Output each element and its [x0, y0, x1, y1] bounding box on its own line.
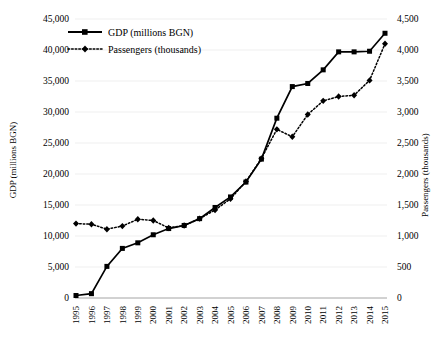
x-tick-label: 1997	[102, 306, 112, 325]
right-tick-label: 1,000	[397, 231, 419, 241]
x-tick-label: 2000	[148, 306, 158, 325]
series-line-gdp	[76, 33, 385, 295]
legend-marker-square	[82, 29, 88, 35]
x-tick-label: 2015	[380, 306, 390, 325]
x-tick-label: 2006	[241, 306, 251, 325]
x-tick-label: 1995	[71, 306, 81, 325]
right-tick-label: 0	[397, 293, 402, 303]
x-tick-label: 2013	[349, 306, 359, 325]
right-tick-label: 3,000	[397, 107, 419, 117]
right-tick-label: 2,500	[397, 138, 419, 148]
left-tick-label: 15,000	[43, 200, 69, 210]
right-axis-tick-labels: 05001,0001,5002,0002,5003,0003,5004,0004…	[397, 14, 419, 303]
data-point-gdp	[135, 240, 140, 245]
right-tick-label: 3,500	[397, 76, 419, 86]
x-tick-label: 2012	[334, 306, 344, 324]
x-tick-label: 2002	[179, 306, 189, 324]
left-tick-label: 5,000	[48, 262, 70, 272]
x-tick-label: 2011	[318, 306, 328, 324]
data-point-gdp	[321, 67, 326, 72]
x-tick-label: 1996	[87, 306, 97, 325]
data-point-passengers	[104, 226, 110, 232]
dual-axis-line-chart: 05,00010,00015,00020,00025,00030,00035,0…	[0, 0, 441, 340]
data-point-passengers	[382, 41, 388, 47]
left-tick-label: 40,000	[43, 45, 69, 55]
data-point-gdp	[104, 264, 109, 269]
data-point-passengers	[73, 220, 79, 226]
right-tick-label: 4,500	[397, 14, 419, 24]
x-tick-label: 2001	[164, 306, 174, 324]
left-tick-label: 10,000	[43, 231, 69, 241]
x-axis-tick-labels: 1995199619971998199920002001200220032004…	[71, 306, 390, 325]
data-point-passengers	[119, 223, 125, 229]
x-tick-label: 1999	[133, 306, 143, 325]
data-point-gdp	[290, 84, 295, 89]
gridlines-group	[75, 19, 387, 298]
left-tick-label: 25,000	[43, 138, 69, 148]
data-point-passengers	[274, 126, 280, 132]
data-point-gdp	[367, 49, 372, 54]
chart-legend: GDP (millions BGN)Passengers (thousands)	[68, 27, 201, 56]
data-point-gdp	[352, 49, 357, 54]
data-point-gdp	[383, 31, 388, 36]
data-point-gdp	[336, 49, 341, 54]
x-tick-label: 1998	[118, 306, 128, 325]
left-tick-label: 45,000	[43, 14, 69, 24]
left-tick-label: 30,000	[43, 107, 69, 117]
legend-marker-diamond	[82, 46, 88, 53]
data-point-passengers	[320, 98, 326, 104]
right-tick-label: 500	[397, 262, 412, 272]
data-point-gdp	[120, 246, 125, 251]
left-axis-title: GDP (millions BGN)	[8, 122, 18, 199]
data-point-gdp	[274, 116, 279, 121]
legend-label: Passengers (thousands)	[108, 44, 201, 56]
x-tick-label: 2004	[210, 306, 220, 325]
right-tick-label: 1,500	[397, 200, 419, 210]
x-tick-label: 2005	[226, 306, 236, 325]
data-point-gdp	[305, 81, 310, 86]
x-tick-label: 2003	[195, 306, 205, 325]
legend-label: GDP (millions BGN)	[108, 27, 193, 39]
right-axis-title: Passengers (thousands)	[420, 133, 430, 217]
x-tick-label: 2008	[272, 306, 282, 325]
right-tick-label: 2,000	[397, 169, 419, 179]
data-point-passengers	[336, 93, 342, 99]
left-tick-label: 0	[64, 293, 69, 303]
left-axis-tick-labels: 05,00010,00015,00020,00025,00030,00035,0…	[43, 14, 69, 303]
x-tick-label: 2014	[365, 306, 375, 325]
data-point-passengers	[88, 221, 94, 227]
right-tick-label: 4,000	[397, 45, 419, 55]
data-point-gdp	[89, 291, 94, 296]
left-tick-label: 35,000	[43, 76, 69, 86]
chart-container: 05,00010,00015,00020,00025,00030,00035,0…	[0, 0, 441, 340]
x-tick-label: 2010	[303, 306, 313, 325]
x-tick-label: 2009	[288, 306, 298, 325]
left-tick-label: 20,000	[43, 169, 69, 179]
data-point-passengers	[150, 217, 156, 223]
data-point-passengers	[135, 216, 141, 222]
data-point-gdp	[151, 232, 156, 237]
data-point-gdp	[74, 293, 79, 298]
series-layer	[73, 31, 388, 298]
x-tick-label: 2007	[257, 306, 267, 325]
